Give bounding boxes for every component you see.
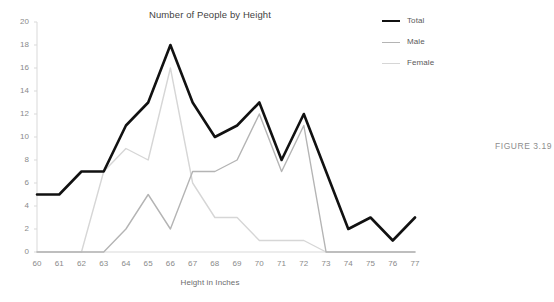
x-tick-label: 62 xyxy=(69,259,93,268)
chart-legend: Total Male Female xyxy=(382,16,434,68)
y-tick-label: 4 xyxy=(7,201,29,210)
x-tick-label: 66 xyxy=(158,259,182,268)
legend-label-female: Female xyxy=(407,59,434,67)
x-tick-label: 73 xyxy=(314,259,338,268)
figure-container: Number of People by Height 0246810121416… xyxy=(0,0,554,302)
y-tick-label: 12 xyxy=(7,109,29,118)
x-tick-label: 69 xyxy=(225,259,249,268)
series-line-male xyxy=(37,114,415,252)
y-tick-label: 16 xyxy=(7,63,29,72)
figure-caption: FIGURE 3.19 xyxy=(495,141,552,151)
legend-swatch-male-icon xyxy=(382,42,400,43)
y-tick-label: 14 xyxy=(7,86,29,95)
x-tick-label: 70 xyxy=(247,259,271,268)
x-axis-title: Height in Inches xyxy=(60,278,360,287)
legend-item-male[interactable]: Male xyxy=(382,37,434,47)
x-tick-label: 72 xyxy=(292,259,316,268)
legend-label-total: Total xyxy=(407,17,424,25)
legend-item-total[interactable]: Total xyxy=(382,16,434,26)
legend-swatch-total-icon xyxy=(382,20,400,22)
x-tick-label: 74 xyxy=(336,259,360,268)
y-tick-label: 18 xyxy=(7,40,29,49)
series-line-total xyxy=(37,45,415,241)
x-tick-label: 67 xyxy=(181,259,205,268)
x-tick-label: 75 xyxy=(359,259,383,268)
y-tick-label: 2 xyxy=(7,224,29,233)
x-tick-label: 68 xyxy=(203,259,227,268)
x-tick-label: 63 xyxy=(92,259,116,268)
y-tick-label: 8 xyxy=(7,155,29,164)
x-tick-label: 64 xyxy=(114,259,138,268)
legend-swatch-female-icon xyxy=(382,63,400,64)
series-lines-group xyxy=(37,45,415,252)
legend-label-male: Male xyxy=(407,38,425,46)
x-tick-label: 60 xyxy=(25,259,49,268)
y-tick-label: 6 xyxy=(7,178,29,187)
y-tick-label: 20 xyxy=(7,17,29,26)
x-tick-label: 76 xyxy=(381,259,405,268)
x-tick-label: 77 xyxy=(403,259,427,268)
legend-item-female[interactable]: Female xyxy=(382,58,434,68)
x-tick-label: 71 xyxy=(270,259,294,268)
x-tick-label: 61 xyxy=(47,259,71,268)
x-tick-label: 65 xyxy=(136,259,160,268)
y-tick-label: 10 xyxy=(7,132,29,141)
y-tick-label: 0 xyxy=(7,247,29,256)
